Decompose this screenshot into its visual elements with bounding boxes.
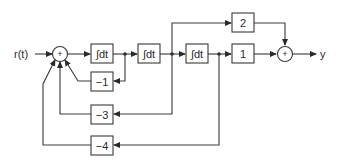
svg-text:−1: −1 — [96, 76, 109, 88]
wire-junction1-fb1 — [114, 54, 125, 81]
block-diagram: r(t) + ∫dt ∫dt ∫dt 1 2 — [0, 0, 342, 166]
wire-fb4-sum1 — [43, 60, 91, 145]
svg-text:∫dt: ∫dt — [190, 48, 203, 61]
svg-text:+: + — [282, 49, 287, 59]
svg-text:∫dt: ∫dt — [142, 48, 155, 61]
input-label: r(t) — [14, 48, 28, 60]
feedback-gain-block-minus1: −1 — [91, 72, 113, 91]
svg-text:1: 1 — [240, 48, 246, 60]
svg-text:2: 2 — [240, 17, 246, 29]
output-label: y — [320, 48, 326, 60]
summing-junction-2: + — [278, 47, 293, 62]
integrator-block-3: ∫dt — [186, 44, 208, 63]
feedback-gain-block-minus3: −3 — [91, 105, 113, 124]
wire-junction3-fb4 — [114, 54, 219, 145]
integrator-block-1: ∫dt — [91, 44, 113, 63]
gain-block-1: 1 — [232, 44, 254, 63]
wire-fb1-sum1 — [65, 60, 91, 81]
wire-fb3-sum1 — [60, 62, 91, 114]
svg-text:−3: −3 — [96, 109, 109, 121]
wire-gain2-sum2 — [254, 23, 285, 45]
svg-text:−4: −4 — [96, 140, 109, 152]
feedback-gain-block-minus4: −4 — [91, 136, 113, 155]
gain-block-2: 2 — [232, 13, 254, 32]
summing-junction-1: + — [53, 47, 68, 62]
svg-text:∫dt: ∫dt — [95, 48, 108, 61]
svg-text:+: + — [57, 49, 62, 59]
integrator-block-2: ∫dt — [138, 44, 160, 63]
